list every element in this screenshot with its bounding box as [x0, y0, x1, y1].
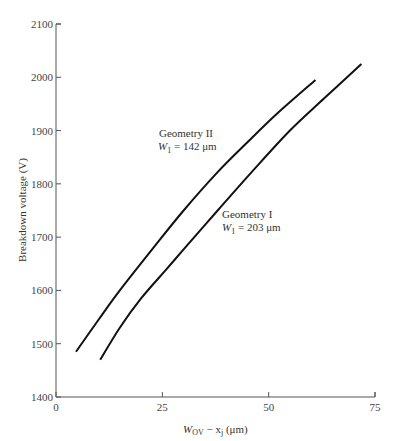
series-geometry-ii: [76, 80, 315, 352]
axis-lines: [56, 24, 375, 397]
y-tick-label: 1400: [31, 391, 54, 403]
y-tick-label: 2100: [31, 18, 54, 30]
x-tick-label: 0: [53, 401, 59, 413]
axes: 140015001600170018001900200021000255075: [31, 18, 381, 413]
geometry-i-width: W1 = 203 μm: [222, 221, 281, 236]
x-tick-label: 75: [370, 401, 382, 413]
y-tick-label: 1500: [31, 338, 54, 350]
geometry-ii-label: Geometry II: [159, 127, 213, 139]
x-tick-label: 25: [157, 401, 169, 413]
y-tick-label: 2000: [31, 71, 54, 83]
y-tick-label: 1900: [31, 125, 54, 137]
geometry-i-label: Geometry I: [222, 208, 273, 220]
y-tick-label: 1700: [31, 231, 54, 243]
geometry-ii-width: W1 = 142 μm: [158, 140, 217, 155]
x-tick-label: 50: [263, 401, 275, 413]
y-tick-label: 1800: [31, 178, 54, 190]
curves: [76, 64, 361, 360]
y-tick-label: 1600: [31, 284, 54, 296]
breakdown-voltage-chart: 140015001600170018001900200021000255075 …: [0, 0, 393, 441]
x-axis-title: WOV − xj (μm): [183, 423, 248, 437]
y-axis-title: Breakdown voltage (V): [16, 158, 29, 262]
